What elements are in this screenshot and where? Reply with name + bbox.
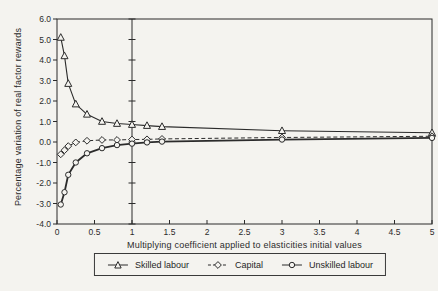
circle-marker (429, 135, 434, 140)
triangle-marker (65, 80, 72, 87)
series-line-skilled-labour (61, 37, 432, 132)
y-axis-tick-label: -1.0 (36, 158, 51, 168)
triangle-marker (99, 118, 106, 125)
x-axis-tick-label: 3.5 (314, 227, 326, 237)
diamond-marker (72, 139, 79, 146)
circle-marker (144, 140, 149, 145)
plot-frame (57, 19, 432, 224)
legend-label: Skilled labour (135, 260, 189, 270)
circle-marker (58, 202, 63, 207)
circle-marker-icon (281, 260, 303, 270)
circle-marker (129, 141, 134, 146)
diamond-icon (215, 261, 222, 268)
y-axis-tick-label: 5.0 (39, 35, 51, 45)
x-axis-tick-label: 2 (205, 227, 210, 237)
circle-icon (289, 262, 294, 267)
y-axis-title: Percentage variation of real factor rewa… (13, 22, 23, 212)
x-axis-tick-label: 4.5 (389, 227, 401, 237)
legend-item-unskilled-labour: Unskilled labour (281, 260, 373, 270)
diamond-marker (84, 137, 91, 144)
triangle-marker (72, 100, 79, 107)
x-axis-tick-label: 0.5 (89, 227, 101, 237)
circle-marker (73, 160, 78, 165)
circle-marker (62, 190, 67, 195)
circle-marker (99, 145, 104, 150)
legend-label: Capital (235, 260, 263, 270)
x-axis-tick-label: 5 (430, 227, 435, 237)
y-axis-tick-label: 4.0 (39, 55, 51, 65)
x-axis-tick-label: 1.5 (164, 227, 176, 237)
y-axis-tick-label: 6.0 (39, 14, 51, 24)
x-axis-title: Multiplying coefficient applied to elast… (57, 240, 432, 250)
chart-legend: Skilled labour Capital Unskilled labour (94, 253, 386, 276)
x-axis-tick-label: 1 (130, 227, 135, 237)
diamond-marker-icon (207, 260, 229, 270)
circle-marker (84, 151, 89, 156)
x-axis-tick-label: 4 (355, 227, 360, 237)
circle-marker (66, 172, 71, 177)
circle-marker (159, 139, 164, 144)
triangle-marker (61, 52, 68, 59)
x-axis-tick-label: 3 (280, 227, 285, 237)
x-axis-tick-label: 0 (55, 227, 60, 237)
x-axis-tick-label: 2.5 (239, 227, 251, 237)
legend-label: Unskilled labour (309, 260, 373, 270)
legend-item-capital: Capital (207, 260, 263, 270)
circle-marker (279, 137, 284, 142)
y-axis-tick-label: 3.0 (39, 76, 51, 86)
triangle-marker (57, 34, 64, 41)
diamond-marker (99, 137, 106, 144)
y-axis-tick-label: 2.0 (39, 96, 51, 106)
y-axis-tick-label: -2.0 (36, 178, 51, 188)
y-axis-tick-label: -3.0 (36, 199, 51, 209)
y-axis-tick-label: 0.0 (39, 137, 51, 147)
legend-item-skilled-labour: Skilled labour (107, 260, 189, 270)
triangle-marker-icon (107, 260, 129, 270)
circle-marker (114, 142, 119, 147)
y-axis-tick-label: -4.0 (36, 219, 51, 229)
scanned-chart-figure: -4.0-3.0-2.0-1.00.01.02.03.04.05.06.000.… (0, 0, 438, 291)
y-axis-tick-label: 1.0 (39, 117, 51, 127)
